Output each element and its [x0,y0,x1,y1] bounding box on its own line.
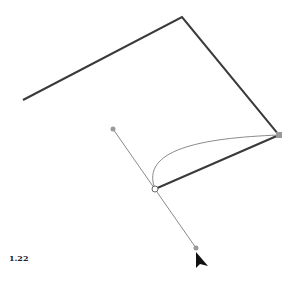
bezier-diagram [0,0,296,291]
cursor-arrow-icon [196,252,208,268]
main-path [23,17,279,189]
handle-point-bottom[interactable] [194,246,199,251]
anchor-point[interactable] [152,186,158,192]
corner-anchor-point[interactable] [276,132,282,138]
figure-caption: 1.22 [9,253,28,263]
handle-point-top[interactable] [111,127,116,132]
